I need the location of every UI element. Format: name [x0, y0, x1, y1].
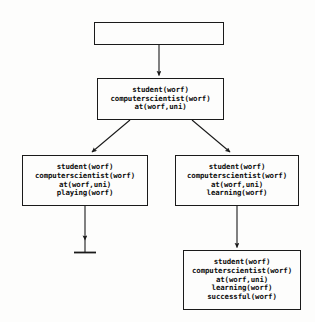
root-node[interactable]: [94, 22, 224, 45]
edge-initial-to-playing: [92, 120, 130, 152]
state-literal: playing(worf): [57, 189, 114, 198]
state-node-successful[interactable]: student(worf) computerscientist(worf) at…: [183, 250, 301, 310]
state-literal: at(worf,uni): [134, 103, 186, 112]
state-node-learning[interactable]: student(worf) computerscientist(worf) at…: [175, 155, 299, 206]
edge-playing-to-deadend: [74, 206, 96, 253]
state-node-playing[interactable]: student(worf) computerscientist(worf) at…: [22, 155, 148, 206]
state-node-initial[interactable]: student(worf) computerscientist(worf) at…: [97, 78, 224, 120]
state-literal: learning(worf): [207, 189, 268, 198]
state-literal: successful(worf): [207, 293, 277, 302]
search-tree-diagram: student(worf) computerscientist(worf) at…: [0, 0, 315, 322]
edge-initial-to-learning: [192, 120, 230, 152]
